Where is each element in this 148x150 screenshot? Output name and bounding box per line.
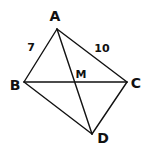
quadrilateral-diagram: A B C D M 7 10 [0,0,148,150]
segment-AB [24,29,57,82]
length-label-AC: 10 [94,42,110,55]
label-M-intersection: M [76,68,87,81]
length-label-AB: 7 [27,41,35,54]
segment-BD [24,82,92,134]
length-labels: 7 10 [27,41,110,55]
label-C: C [131,75,141,91]
segments [24,29,127,134]
label-D: D [97,130,109,146]
segment-CD [92,82,127,134]
label-B: B [10,77,21,93]
segment-AC [57,29,127,82]
label-A: A [50,8,61,24]
